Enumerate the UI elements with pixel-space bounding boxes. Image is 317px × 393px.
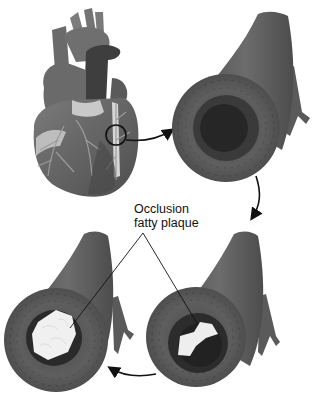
heart-illustration	[34, 8, 139, 197]
diagram-svg	[0, 0, 317, 393]
artery-occluded	[4, 232, 134, 392]
plaque-label-line1: Occlusion	[134, 202, 199, 216]
diagram-canvas: Occlusion fatty plaque	[0, 0, 317, 393]
arrow-down	[252, 176, 259, 218]
artery-healthy	[172, 12, 310, 182]
plaque-label-line2: fatty plaque	[134, 216, 199, 230]
arrow-left	[110, 368, 156, 376]
open-lumen	[200, 104, 248, 152]
artery-partial-occlusion	[146, 232, 280, 387]
plaque-label: Occlusion fatty plaque	[134, 202, 199, 230]
